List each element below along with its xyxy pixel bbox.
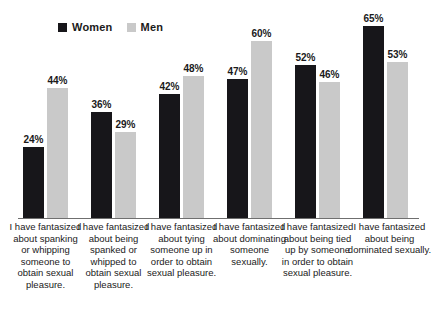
bar-group-bars: 47%60% xyxy=(225,0,274,218)
bar-value-label: 42% xyxy=(159,81,179,92)
bar-group-bars: 52%46% xyxy=(293,0,342,218)
category-label: I have fantasized about spanking or whip… xyxy=(9,221,83,291)
bar-value-label: 24% xyxy=(23,134,43,145)
bar-value-label: 44% xyxy=(47,75,67,86)
category-label: I have fantasized about being tied up by… xyxy=(281,221,355,279)
bar-group-bars: 36%29% xyxy=(89,0,138,218)
bar-value-label: 48% xyxy=(183,63,203,74)
category-label: I have fantasized about dominating someo… xyxy=(213,221,287,267)
bar-value-label: 65% xyxy=(363,13,383,24)
bar-rect[interactable] xyxy=(227,79,248,218)
category-label: I have fantasized about being dominated … xyxy=(347,221,433,256)
bar-value-label: 29% xyxy=(115,119,135,130)
bar-group: 65%53% xyxy=(361,0,410,218)
bar-group: 52%46% xyxy=(293,0,342,218)
bar-group: 24%44% xyxy=(21,0,70,218)
bar-rect[interactable] xyxy=(387,62,408,218)
bar-men[interactable]: 44% xyxy=(47,0,68,218)
bar-rect[interactable] xyxy=(295,65,316,218)
bar-group-bars: 42%48% xyxy=(157,0,206,218)
bar-group-bars: 65%53% xyxy=(361,0,410,218)
bar-women[interactable]: 47% xyxy=(227,0,248,218)
bar-value-label: 53% xyxy=(387,49,407,60)
bar-value-label: 46% xyxy=(319,69,339,80)
bar-group: 36%29% xyxy=(89,0,138,218)
bar-rect[interactable] xyxy=(91,112,112,218)
bar-men[interactable]: 53% xyxy=(387,0,408,218)
bar-rect[interactable] xyxy=(363,26,384,218)
bar-value-label: 60% xyxy=(251,28,271,39)
bar-women[interactable]: 52% xyxy=(295,0,316,218)
bar-women[interactable]: 36% xyxy=(91,0,112,218)
bar-rect[interactable] xyxy=(319,82,340,218)
category-label: I have fantasized about being spanked or… xyxy=(77,221,151,291)
bar-value-label: 52% xyxy=(295,52,315,63)
bar-men[interactable]: 46% xyxy=(319,0,340,218)
bar-rect[interactable] xyxy=(115,132,136,218)
plot-area: 24%44%36%29%42%48%47%60%52%46%65%53% xyxy=(0,0,427,219)
bar-women[interactable]: 42% xyxy=(159,0,180,218)
category-labels: I have fantasized about spanking or whip… xyxy=(0,221,427,310)
bar-rect[interactable] xyxy=(251,41,272,218)
bar-rect[interactable] xyxy=(23,147,44,218)
bar-value-label: 47% xyxy=(227,66,247,77)
category-label: I have fantasized about tying someone up… xyxy=(145,221,219,279)
bar-group: 42%48% xyxy=(157,0,206,218)
bar-value-label: 36% xyxy=(91,99,111,110)
bar-men[interactable]: 60% xyxy=(251,0,272,218)
bar-rect[interactable] xyxy=(159,94,180,218)
bar-group: 47%60% xyxy=(225,0,274,218)
bar-women[interactable]: 24% xyxy=(23,0,44,218)
x-axis-baseline xyxy=(18,218,419,219)
bar-rect[interactable] xyxy=(47,88,68,218)
bar-men[interactable]: 29% xyxy=(115,0,136,218)
bar-women[interactable]: 65% xyxy=(363,0,384,218)
bar-rect[interactable] xyxy=(183,76,204,218)
bar-men[interactable]: 48% xyxy=(183,0,204,218)
bar-group-bars: 24%44% xyxy=(21,0,70,218)
